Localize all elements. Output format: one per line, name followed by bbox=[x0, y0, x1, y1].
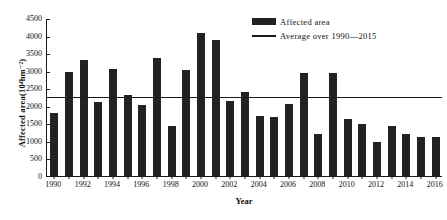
bar bbox=[168, 126, 176, 176]
y-axis-tick-mark bbox=[47, 37, 50, 38]
x-axis-tick-label: 1998 bbox=[163, 180, 179, 189]
bar bbox=[65, 72, 73, 176]
bar bbox=[241, 92, 249, 176]
x-axis-tick-mark bbox=[318, 176, 319, 179]
x-axis-tick-label: 2000 bbox=[192, 180, 208, 189]
y-axis-tick-label: 4000 bbox=[14, 33, 42, 41]
x-axis-tick-labels: 1990199219941996199820002002200420062008… bbox=[46, 180, 442, 192]
y-axis-tick-mark bbox=[47, 54, 50, 55]
bar bbox=[373, 142, 381, 176]
bar bbox=[256, 116, 264, 176]
bar bbox=[212, 40, 220, 176]
bar bbox=[432, 137, 440, 176]
x-axis-tick-mark bbox=[303, 176, 304, 179]
x-axis-tick-mark bbox=[288, 176, 289, 179]
bar bbox=[94, 102, 102, 176]
y-axis-tick-mark bbox=[47, 89, 50, 90]
x-axis-tick-mark bbox=[54, 176, 55, 179]
x-axis-tick-label: 2012 bbox=[368, 180, 384, 189]
x-axis-tick-mark bbox=[332, 176, 333, 179]
bar bbox=[285, 104, 293, 176]
y-axis-tick-mark bbox=[47, 159, 50, 160]
legend-item-label: Affected area bbox=[280, 17, 330, 27]
bar bbox=[388, 126, 396, 176]
x-axis-title: Year bbox=[46, 196, 442, 206]
x-axis-tick-mark bbox=[215, 176, 216, 179]
y-axis-tick-mark bbox=[47, 19, 50, 20]
legend-item-average: Average over 1990—2015 bbox=[252, 29, 442, 42]
x-axis-tick-mark bbox=[259, 176, 260, 179]
x-axis-tick-mark bbox=[376, 176, 377, 179]
bar bbox=[226, 101, 234, 176]
bar bbox=[300, 73, 308, 176]
legend-item-affected-area: Affected area bbox=[252, 15, 442, 28]
x-axis-tick-mark bbox=[391, 176, 392, 179]
bar bbox=[402, 134, 410, 176]
x-axis-tick-label: 2008 bbox=[309, 180, 325, 189]
x-axis-tick-mark bbox=[186, 176, 187, 179]
bar bbox=[417, 137, 425, 176]
y-axis-tick-mark bbox=[47, 72, 50, 73]
x-axis-tick-mark bbox=[127, 176, 128, 179]
x-axis-tick-mark bbox=[244, 176, 245, 179]
y-axis-tick-label: 2000 bbox=[14, 103, 42, 111]
bar bbox=[358, 124, 366, 176]
y-axis-tick-label: 4500 bbox=[14, 15, 42, 23]
bar bbox=[344, 119, 352, 176]
bar bbox=[314, 134, 322, 176]
x-axis-tick-mark bbox=[274, 176, 275, 179]
bar bbox=[197, 33, 205, 176]
x-axis-tick-mark bbox=[362, 176, 363, 179]
bar bbox=[138, 105, 146, 176]
x-axis-tick-label: 2002 bbox=[221, 180, 237, 189]
y-axis-tick-label: 1500 bbox=[14, 120, 42, 128]
bar-chart: Affected area(10⁴hm⁻²) 05001000150020002… bbox=[0, 0, 447, 220]
x-axis-tick-mark bbox=[347, 176, 348, 179]
x-axis-tick-mark bbox=[435, 176, 436, 179]
y-axis-tick-label: 500 bbox=[14, 155, 42, 163]
y-axis-tick-label: 3000 bbox=[14, 68, 42, 76]
x-axis-tick-label: 2010 bbox=[339, 180, 355, 189]
legend-item-label: Average over 1990—2015 bbox=[280, 31, 377, 41]
bar bbox=[270, 117, 278, 176]
bar bbox=[153, 58, 161, 176]
x-axis-tick-label: 1992 bbox=[75, 180, 91, 189]
x-axis-tick-mark bbox=[200, 176, 201, 179]
x-axis-tick-label: 1990 bbox=[45, 180, 61, 189]
legend-line-swatch-icon bbox=[252, 35, 276, 37]
bar bbox=[80, 60, 88, 176]
average-line bbox=[47, 97, 442, 98]
x-axis-tick-label: 1996 bbox=[133, 180, 149, 189]
x-axis-tick-label: 2006 bbox=[280, 180, 296, 189]
y-axis-tick-label: 3500 bbox=[14, 50, 42, 58]
y-axis-tick-label: 1000 bbox=[14, 138, 42, 146]
y-axis-tick-mark bbox=[47, 142, 50, 143]
x-axis-tick-mark bbox=[83, 176, 84, 179]
x-axis-tick-mark bbox=[406, 176, 407, 179]
x-axis-tick-mark bbox=[68, 176, 69, 179]
y-axis-tick-label: 0 bbox=[14, 173, 42, 181]
x-axis-tick-mark bbox=[420, 176, 421, 179]
bar bbox=[109, 69, 117, 176]
x-axis-tick-mark bbox=[156, 176, 157, 179]
bar bbox=[329, 73, 337, 176]
chart-legend: Affected area Average over 1990—2015 bbox=[252, 15, 442, 43]
bar bbox=[182, 70, 190, 176]
x-axis-tick-label: 2016 bbox=[427, 180, 443, 189]
x-axis-tick-label: 1994 bbox=[104, 180, 120, 189]
x-axis-tick-mark bbox=[112, 176, 113, 179]
y-axis-tick-labels: 050010001500200025003000350040004500 bbox=[14, 19, 42, 177]
bar bbox=[50, 113, 58, 176]
legend-bar-swatch-icon bbox=[252, 18, 276, 25]
bar bbox=[124, 95, 132, 176]
y-axis-tick-mark bbox=[47, 107, 50, 108]
x-axis-tick-label: 2004 bbox=[251, 180, 267, 189]
x-axis-tick-mark bbox=[171, 176, 172, 179]
x-axis-tick-label: 2014 bbox=[397, 180, 413, 189]
x-axis-tick-mark bbox=[98, 176, 99, 179]
x-axis-tick-mark bbox=[230, 176, 231, 179]
y-axis-tick-mark bbox=[47, 124, 50, 125]
y-axis-tick-label: 2500 bbox=[14, 85, 42, 93]
x-axis-tick-mark bbox=[142, 176, 143, 179]
